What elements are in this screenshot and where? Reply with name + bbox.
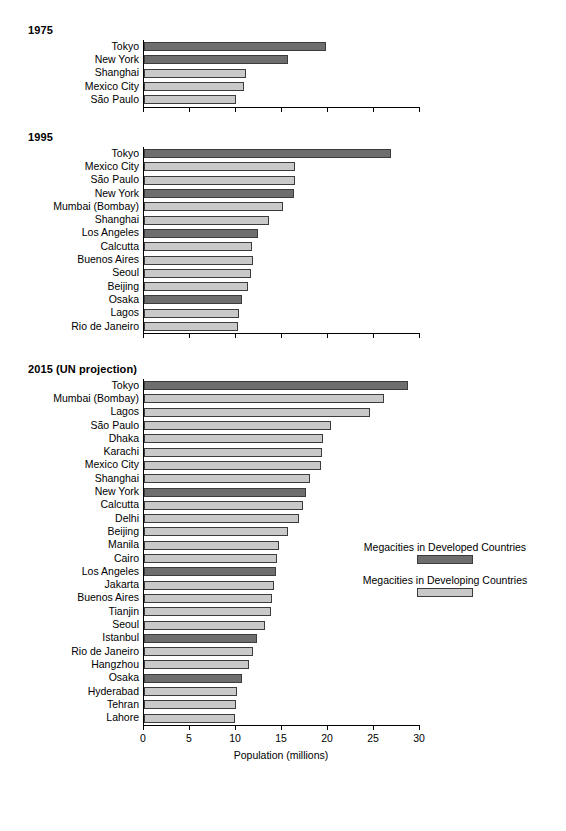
bar [144,434,323,443]
bar [144,149,391,158]
x-tick-label: 0 [123,732,163,744]
bar [144,714,235,723]
category-label: Mumbai (Bombay) [0,201,139,212]
category-label: Buenos Aires [0,254,139,265]
x-tick-1-3 [281,334,282,338]
bar [144,189,294,198]
bar [144,69,246,78]
x-tick-label: 30 [399,732,439,744]
category-label: São Paulo [0,174,139,185]
category-label: Calcutta [0,499,139,510]
bar [144,162,295,171]
bar [144,594,272,603]
category-label: Tehran [0,699,139,710]
x-tick-1-0 [143,334,144,338]
category-label: New York [0,486,139,497]
x-tick-label: 20 [307,732,347,744]
bar [144,541,279,550]
category-label: São Paulo [0,94,139,105]
category-label: Los Angeles [0,566,139,577]
x-tick-0-6 [419,108,420,112]
x-tick-2-0 [143,726,144,730]
bar [144,621,265,630]
bar [144,687,237,696]
bar [144,634,257,643]
bar [144,607,271,616]
bar [144,421,331,430]
category-label: Seoul [0,619,139,630]
legend-entry-developing: Megacities in Developing Countries [345,574,545,597]
category-label: Mumbai (Bombay) [0,393,139,404]
category-label: Manila [0,539,139,550]
bar [144,488,306,497]
x-tick-label: 25 [353,732,393,744]
category-label: Lahore [0,712,139,723]
bar [144,42,326,51]
x-tick-1-5 [373,334,374,338]
category-label: São Paulo [0,420,139,431]
x-tick-0-3 [281,108,282,112]
x-tick-0-4 [327,108,328,112]
bar [144,501,303,510]
panel-title-1: 1995 [28,131,53,143]
category-label: Buenos Aires [0,592,139,603]
x-tick-2-3 [281,726,282,730]
bar [144,514,299,523]
category-label: Shanghai [0,214,139,225]
bar [144,282,248,291]
bar [144,202,283,211]
x-tick-label: 10 [215,732,255,744]
category-label: Tokyo [0,41,139,52]
bar [144,229,258,238]
x-tick-0-5 [373,108,374,112]
category-label: Tianjin [0,606,139,617]
bar [144,408,370,417]
bar [144,700,236,709]
bar [144,581,274,590]
x-tick-2-4 [327,726,328,730]
category-label: Mexico City [0,161,139,172]
bar [144,567,276,576]
category-label: Shanghai [0,473,139,484]
category-label: Istanbul [0,632,139,643]
category-label: Mexico City [0,459,139,470]
legend-label: Megacities in Developed Countries [345,541,545,553]
bar [144,674,242,683]
x-tick-0-0 [143,108,144,112]
category-label: Lagos [0,406,139,417]
category-label: Rio de Janeiro [0,321,139,332]
category-label: New York [0,54,139,65]
bar [144,448,322,457]
legend-label: Megacities in Developing Countries [345,574,545,586]
category-label: Beijing [0,526,139,537]
category-label: Osaka [0,672,139,683]
x-tick-2-2 [235,726,236,730]
bar [144,647,253,656]
x-tick-label: 5 [169,732,209,744]
legend-entry-developed: Megacities in Developed Countries [345,541,545,564]
bar [144,554,277,563]
x-tick-2-6 [419,726,420,730]
bar [144,461,321,470]
category-label: Dhaka [0,433,139,444]
bar [144,394,384,403]
x-tick-1-1 [189,334,190,338]
category-label: Los Angeles [0,227,139,238]
x-tick-2-1 [189,726,190,730]
category-label: Tokyo [0,148,139,159]
category-label: Lagos [0,307,139,318]
category-label: Calcutta [0,241,139,252]
bar [144,82,244,91]
x-tick-1-4 [327,334,328,338]
x-tick-2-5 [373,726,374,730]
category-label: Cairo [0,553,139,564]
category-label: Jakarta [0,579,139,590]
x-axis-title: Population (millions) [123,749,439,761]
bar [144,309,239,318]
category-label: Seoul [0,267,139,278]
x-tick-0-1 [189,108,190,112]
x-tick-label: 15 [261,732,301,744]
category-label: Hyderabad [0,686,139,697]
bar [144,55,288,64]
bar [144,242,252,251]
